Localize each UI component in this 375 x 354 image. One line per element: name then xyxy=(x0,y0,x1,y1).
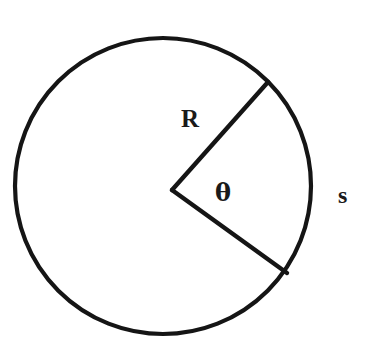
radius-upper-line xyxy=(172,82,268,190)
diagram-canvas xyxy=(0,0,375,354)
central-angle-label: θ xyxy=(215,181,231,205)
arc-length-label: s xyxy=(338,183,348,207)
radius-label: R xyxy=(181,106,200,131)
circle-sector-diagram: R θ s xyxy=(0,0,375,354)
